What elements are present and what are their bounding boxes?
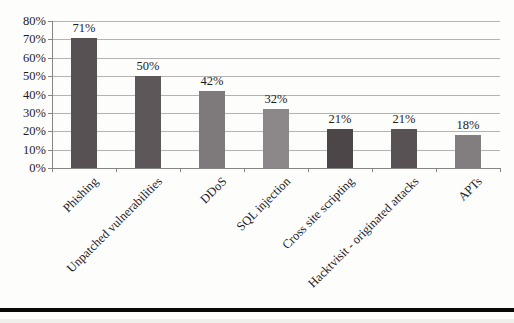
bar-apts — [455, 135, 481, 168]
y-tick-label-70: 70% — [12, 33, 46, 46]
category-label-hacktvisit-originated-attacks: Hacktvisit - originated attacks — [306, 175, 421, 290]
category-label-apts: APTs — [456, 175, 485, 204]
bar-sql-injection — [263, 109, 289, 168]
y-tick-label-10: 10% — [12, 144, 46, 157]
bar-chart: 0%10%20%30%40%50%60%70%80%71%Phishing50%… — [0, 0, 514, 323]
bar-phishing — [71, 38, 97, 168]
y-tick-label-50: 50% — [12, 70, 46, 83]
bar-value-label-cross-site-scripting: 21% — [318, 113, 362, 126]
y-tick-label-0: 0% — [12, 162, 46, 175]
bar-value-label-unpatched-vulnerabilities: 50% — [126, 60, 170, 73]
x-axis-tick-3 — [244, 168, 245, 172]
y-tick-label-20: 20% — [12, 125, 46, 138]
x-axis-tick-1 — [116, 168, 117, 172]
gridline-70 — [52, 39, 500, 40]
bar-value-label-hacktvisit-originated-attacks: 21% — [382, 113, 426, 126]
x-axis — [52, 168, 500, 169]
bar-ddos — [199, 91, 225, 168]
bar-hacktvisit-originated-attacks — [391, 129, 417, 168]
category-label-ddos: DDoS — [198, 175, 229, 206]
gridline-80 — [52, 21, 500, 22]
gridline-60 — [52, 58, 500, 59]
x-axis-tick-5 — [372, 168, 373, 172]
y-tick-label-80: 80% — [12, 15, 46, 28]
y-tick-label-30: 30% — [12, 107, 46, 120]
page-bottom-edge — [0, 319, 514, 323]
category-label-phishing: Phishing — [61, 175, 101, 215]
bar-cross-site-scripting — [327, 129, 353, 168]
x-axis-tick-4 — [308, 168, 309, 172]
y-tick-label-60: 60% — [12, 52, 46, 65]
bar-value-label-ddos: 42% — [190, 75, 234, 88]
x-axis-tick-7 — [500, 168, 501, 172]
gridline-50 — [52, 76, 500, 77]
bar-value-label-sql-injection: 32% — [254, 93, 298, 106]
x-axis-tick-0 — [52, 168, 53, 172]
separator-line — [0, 308, 514, 312]
category-label-sql-injection: SQL injection — [234, 175, 293, 234]
x-axis-tick-2 — [180, 168, 181, 172]
x-axis-tick-6 — [436, 168, 437, 172]
bar-unpatched-vulnerabilities — [135, 76, 161, 168]
y-tick-label-40: 40% — [12, 89, 46, 102]
bar-value-label-apts: 18% — [446, 119, 490, 132]
bar-value-label-phishing: 71% — [62, 22, 106, 35]
y-axis — [52, 21, 53, 168]
